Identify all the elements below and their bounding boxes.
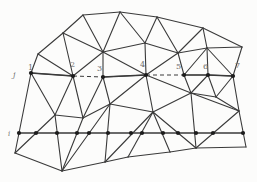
intersection-dot xyxy=(129,131,133,135)
mesh-edge xyxy=(157,17,203,28)
mesh-edge xyxy=(110,75,146,104)
node-dot-5 xyxy=(182,73,186,77)
mesh-edge xyxy=(145,17,157,43)
node-dot-3 xyxy=(101,75,105,79)
intersection-dot xyxy=(161,131,165,135)
mesh-edge xyxy=(62,118,83,171)
node-label-5: 5 xyxy=(176,62,181,71)
grid-line-j-solid-segment xyxy=(103,75,146,77)
node-dot-7 xyxy=(231,74,235,78)
row-label-i: i xyxy=(8,130,10,138)
mesh-edge xyxy=(208,75,216,97)
mesh-edge xyxy=(63,33,103,52)
node-dot-2 xyxy=(71,74,75,78)
mesh-edge xyxy=(73,76,83,118)
mesh-edge xyxy=(31,73,55,115)
intersection-dot xyxy=(34,131,38,135)
mesh-edge xyxy=(153,93,191,112)
mesh-edge xyxy=(38,33,63,54)
mesh-edge xyxy=(120,12,145,43)
mesh-edge xyxy=(103,43,145,52)
mesh-edge xyxy=(120,12,157,17)
mesh-edge xyxy=(146,75,153,112)
mesh-figure: 1234567ji xyxy=(0,0,257,182)
mesh-edge xyxy=(55,115,62,171)
intersection-dot xyxy=(55,131,59,135)
mesh-edge xyxy=(62,104,110,171)
mesh-edge xyxy=(216,76,233,97)
mesh-edge xyxy=(83,15,103,52)
mesh-edge xyxy=(63,15,83,33)
intersection-dot xyxy=(241,131,245,135)
node-label-7: 7 xyxy=(235,61,240,70)
mesh-edge xyxy=(128,152,170,157)
mesh-edge xyxy=(15,73,31,153)
mesh-edge xyxy=(145,43,146,75)
intersection-dot xyxy=(17,131,21,135)
node-label-2: 2 xyxy=(70,60,75,69)
mesh-edge xyxy=(203,28,242,47)
mesh-edge xyxy=(62,162,105,171)
mesh-edge xyxy=(55,76,73,115)
mesh-edge xyxy=(191,93,196,148)
node-label-1: 1 xyxy=(28,63,33,72)
mesh-edge xyxy=(153,112,196,148)
mesh-edge xyxy=(207,47,242,48)
mesh-edge xyxy=(83,77,103,118)
intersection-dot xyxy=(211,131,215,135)
mesh-edge xyxy=(191,75,208,93)
row-label-j: j xyxy=(11,70,16,79)
intersection-dot xyxy=(87,131,91,135)
grid-line-j-solid-segment xyxy=(208,75,233,76)
mesh-edge xyxy=(103,12,120,52)
intersection-dot xyxy=(106,131,110,135)
node-label-4: 4 xyxy=(140,60,145,69)
intersection-dot xyxy=(194,131,198,135)
mesh-edge xyxy=(196,147,246,148)
mesh-edge xyxy=(196,111,239,148)
mesh-edge xyxy=(83,12,120,15)
grid-line-j-dashed-segment xyxy=(73,76,103,77)
intersection-dot xyxy=(176,131,180,135)
mesh-edge xyxy=(103,77,110,104)
node-dot-6 xyxy=(206,73,210,77)
mesh-edge xyxy=(110,104,153,112)
mesh-edge xyxy=(170,148,196,152)
mesh-edge xyxy=(233,76,239,111)
triangular-mesh-diagram: 1234567ji xyxy=(0,0,257,182)
mesh-edge xyxy=(203,28,207,48)
mesh-edge xyxy=(38,54,73,76)
intersection-dot xyxy=(140,131,144,135)
mesh-edge xyxy=(63,33,73,76)
mesh-edge xyxy=(239,111,246,147)
node-label-3: 3 xyxy=(97,64,102,73)
node-label-6: 6 xyxy=(203,62,208,71)
mesh-edge xyxy=(146,53,178,75)
node-dot-4 xyxy=(144,73,148,77)
mesh-edge xyxy=(146,75,191,93)
mesh-edge xyxy=(83,104,110,118)
mesh-edge xyxy=(15,153,62,171)
mesh-edge xyxy=(207,48,233,76)
grid-line-j-solid-segment xyxy=(31,73,73,76)
intersection-dot xyxy=(75,131,79,135)
mesh-edge xyxy=(55,115,83,118)
mesh-edge xyxy=(191,93,216,97)
